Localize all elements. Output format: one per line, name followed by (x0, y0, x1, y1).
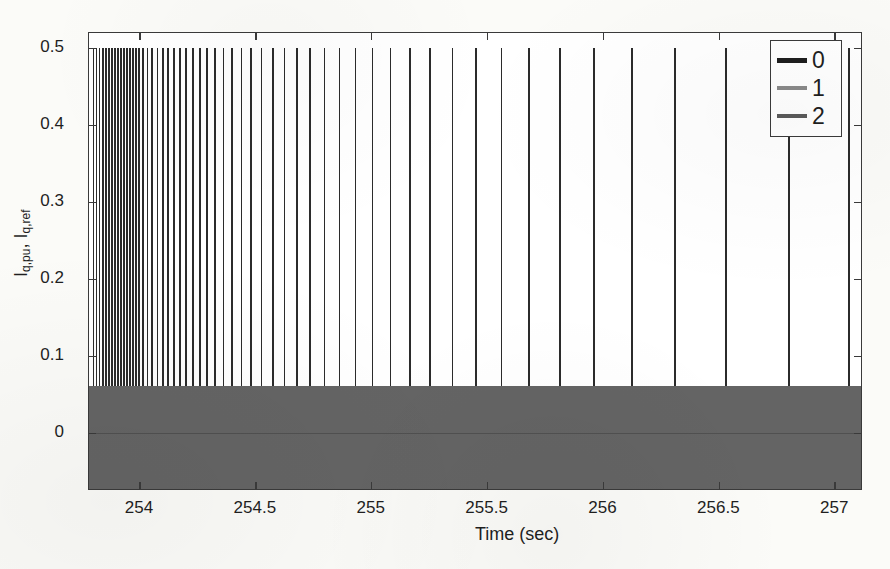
spike-30 (231, 48, 233, 387)
spike-41 (372, 48, 374, 387)
y-tick-label-4: 0.4 (40, 114, 64, 134)
spike-46 (475, 48, 477, 387)
x-tick-top-0 (139, 33, 140, 40)
y-tick-4 (89, 125, 96, 126)
y-tick-right-0 (854, 433, 861, 434)
spike-37 (309, 48, 311, 387)
spike-7 (114, 48, 116, 387)
spike-34 (272, 48, 274, 387)
spike-36 (296, 48, 298, 387)
spike-0 (93, 48, 95, 387)
spike-55 (848, 48, 850, 387)
spike-32 (250, 48, 252, 387)
x-tick-4 (603, 482, 604, 489)
spike-42 (390, 48, 392, 387)
y-axis-title-base-1: I (11, 272, 31, 277)
spike-35 (284, 48, 286, 387)
spike-5 (108, 48, 110, 387)
spike-28 (214, 48, 216, 387)
spike-14 (135, 48, 137, 387)
y-axis-title-sub-1: q,pu (19, 249, 33, 272)
x-tick-label-1: 254.5 (234, 498, 277, 518)
y-tick-5 (89, 48, 96, 49)
x-tick-label-3: 255.5 (465, 498, 508, 518)
x-tick-label-2: 255 (357, 498, 385, 518)
spike-10 (123, 48, 125, 387)
spike-1 (96, 48, 98, 387)
x-tick-label-0: 254 (125, 498, 153, 518)
x-tick-top-5 (719, 33, 720, 40)
legend-label-2: 2 (812, 105, 825, 128)
spike-33 (261, 48, 263, 387)
spike-23 (179, 48, 181, 387)
y-tick-2 (89, 279, 96, 280)
spike-3 (102, 48, 104, 387)
chart-legend: 012 (770, 40, 842, 137)
spike-27 (206, 48, 208, 387)
spike-44 (429, 48, 431, 387)
spike-19 (157, 48, 159, 387)
spike-26 (199, 48, 201, 387)
x-tick-top-6 (834, 33, 835, 40)
figure-canvas: 254254.5255255.5256256.5257 00.10.20.30.… (0, 0, 890, 569)
spike-31 (241, 48, 243, 387)
spike-16 (142, 48, 144, 387)
spike-43 (409, 48, 411, 387)
y-tick-0 (89, 433, 96, 434)
y-axis-title: Iq,pu, Iq,ref (11, 163, 33, 323)
y-tick-right-4 (854, 125, 861, 126)
spike-8 (117, 48, 119, 387)
spike-13 (132, 48, 134, 387)
x-tick-top-3 (487, 33, 488, 40)
spike-48 (528, 48, 530, 387)
x-tick-3 (487, 482, 488, 489)
spike-11 (126, 48, 128, 387)
spike-25 (192, 48, 194, 387)
legend-item-0[interactable]: 0 (777, 46, 837, 74)
plot-area (88, 32, 862, 490)
x-tick-0 (139, 482, 140, 489)
spike-2 (99, 48, 101, 387)
zero-oscillation-band (89, 386, 861, 489)
legend-swatch-2 (777, 114, 807, 119)
spike-53 (725, 48, 727, 387)
spike-17 (147, 48, 149, 387)
x-tick-label-6: 257 (820, 498, 848, 518)
spike-18 (151, 48, 153, 387)
spike-52 (674, 48, 676, 387)
legend-item-1[interactable]: 1 (777, 74, 837, 102)
legend-label-0: 0 (812, 49, 825, 72)
spike-50 (593, 48, 595, 387)
y-tick-label-5: 0.5 (40, 37, 64, 57)
y-tick-1 (89, 356, 96, 357)
legend-item-2[interactable]: 2 (777, 102, 837, 130)
y-tick-label-2: 0.2 (40, 268, 64, 288)
y-tick-label-0: 0 (55, 422, 64, 442)
spike-21 (167, 48, 169, 387)
y-axis-title-separator: , (11, 239, 31, 249)
legend-swatch-0 (777, 58, 807, 63)
spike-49 (559, 48, 561, 387)
y-tick-label-3: 0.3 (40, 191, 64, 211)
x-tick-label-4: 256 (588, 498, 616, 518)
spike-24 (185, 48, 187, 387)
spike-38 (324, 48, 326, 387)
spike-15 (138, 48, 140, 387)
y-tick-3 (89, 202, 96, 203)
x-tick-top-1 (255, 33, 256, 40)
y-tick-right-3 (854, 202, 861, 203)
spike-6 (111, 48, 113, 387)
spike-29 (223, 48, 225, 387)
spike-51 (631, 48, 633, 387)
y-axis-title-base-2: I (11, 233, 31, 238)
spike-12 (129, 48, 131, 387)
y-axis-title-sub-2: q,ref (19, 209, 33, 233)
x-axis-title: Time (sec) (475, 524, 559, 545)
x-tick-top-2 (371, 33, 372, 40)
spike-47 (501, 48, 503, 387)
x-tick-top-4 (603, 33, 604, 40)
spike-40 (355, 48, 357, 387)
x-tick-6 (834, 482, 835, 489)
y-tick-right-2 (854, 279, 861, 280)
spike-45 (452, 48, 454, 387)
